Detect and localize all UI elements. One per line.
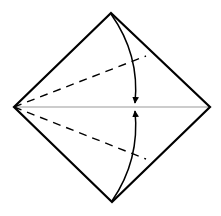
- origami-diagram: [0, 0, 221, 216]
- valley-fold-line-upper: [14, 56, 146, 107]
- diagram-canvas: [0, 0, 221, 216]
- fold-arrow-down-icon: [111, 14, 136, 103]
- fold-arrow-up-icon: [112, 111, 136, 201]
- valley-fold-line-lower: [14, 107, 146, 159]
